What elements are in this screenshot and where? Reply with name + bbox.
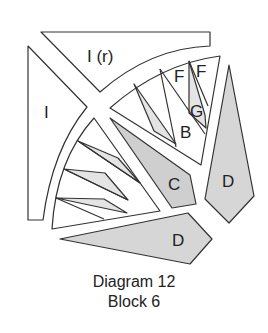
- label-b: B: [180, 123, 191, 142]
- label-f2: F: [196, 62, 206, 81]
- label-f1: F: [174, 67, 184, 86]
- label-d-right: D: [222, 172, 234, 191]
- caption-subtitle: Block 6: [0, 292, 268, 311]
- label-i: I: [44, 103, 49, 122]
- label-i-r: I (r): [87, 47, 113, 66]
- label-g: G: [190, 102, 203, 121]
- label-d-bottom: D: [172, 231, 184, 250]
- label-c: C: [168, 175, 180, 194]
- caption-title: Diagram 12: [0, 272, 268, 291]
